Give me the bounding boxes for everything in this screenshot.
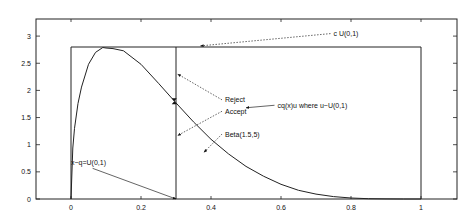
- y-axis-ticks: 00.511.522.53: [21, 33, 457, 203]
- y-tick-label: 3: [27, 33, 31, 40]
- y-tick-label: 2.5: [21, 60, 31, 67]
- y-tick-label: 1: [27, 141, 31, 148]
- y-tick-label: 0: [27, 196, 31, 203]
- x-tick-label: 1: [419, 204, 423, 211]
- y-tick-label: 0.5: [21, 168, 31, 175]
- annotation-label: Accept: [225, 108, 246, 116]
- annotation-label: x~q=U(0,1): [71, 159, 106, 167]
- x-tick-label: 0.8: [346, 204, 356, 211]
- x-tick-label: 0.4: [206, 204, 216, 211]
- y-tick-label: 1.5: [21, 114, 31, 121]
- x-tick-label: 0: [69, 204, 73, 211]
- annotation-label: c U(0,1): [334, 30, 359, 38]
- beta-rejection-sampling-chart: 00.20.40.60.81 00.511.522.53 c U(0,1)Rej…: [0, 0, 474, 220]
- annotation-label: Reject: [225, 96, 245, 104]
- x-tick-label: 0.6: [276, 204, 286, 211]
- series-lines: [71, 47, 421, 199]
- y-tick-label: 2: [27, 87, 31, 94]
- annotation-label: Beta(1.5,5): [225, 131, 260, 139]
- envelope-c-uniform: [71, 47, 421, 199]
- beta-density-curve: [71, 48, 421, 200]
- annotations: c U(0,1)RejectAcceptcq(x)u where u~U(0,1…: [71, 30, 358, 199]
- plot-frame: [36, 19, 457, 199]
- x-tick-label: 0.2: [136, 204, 146, 211]
- x-axis-ticks: 00.20.40.60.81: [69, 19, 423, 211]
- annotation-label: cq(x)u where u~U(0,1): [278, 102, 348, 110]
